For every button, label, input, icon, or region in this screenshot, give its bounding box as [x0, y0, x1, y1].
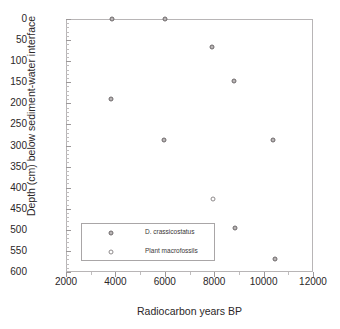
y-tick-label: 50	[0, 34, 27, 45]
figure-scatter-depth-vs-radiocarbon-age: Depth (cm) below sediment-water interfac…	[0, 0, 340, 329]
y-tick-minor	[66, 141, 69, 142]
y-tick-minor	[66, 162, 69, 163]
y-tick-mark	[66, 209, 71, 210]
data-point	[109, 17, 114, 22]
x-tick-minor	[91, 272, 92, 275]
y-tick-minor	[66, 32, 69, 33]
x-tick-label: 12000	[283, 276, 340, 287]
y-tick-mark	[66, 40, 71, 41]
y-tick-minor	[66, 234, 69, 235]
y-tick-label: 300	[0, 140, 27, 151]
y-tick-minor	[66, 238, 69, 239]
y-tick-minor	[66, 129, 69, 130]
y-tick-mark	[66, 146, 71, 147]
x-axis-title: Radiocarbon years BP	[66, 305, 313, 317]
y-tick-minor	[66, 112, 69, 113]
y-tick-minor	[66, 99, 69, 100]
y-tick-label: 350	[0, 161, 27, 172]
data-point	[209, 45, 214, 50]
y-tick-label: 200	[0, 97, 27, 108]
y-tick-label: 500	[0, 224, 27, 235]
y-tick-minor	[66, 192, 69, 193]
x-tick-minor	[288, 272, 289, 275]
data-point	[271, 138, 276, 143]
y-tick-minor	[66, 133, 69, 134]
y-tick-minor	[66, 86, 69, 87]
y-tick-mark	[66, 124, 71, 125]
y-tick-mark	[66, 82, 71, 83]
y-tick-minor	[66, 205, 69, 206]
y-tick-label: 450	[0, 203, 27, 214]
y-tick-minor	[66, 36, 69, 37]
y-tick-label: 400	[0, 182, 27, 193]
y-tick-mark	[66, 19, 71, 20]
legend-label-1: Plant macrofossils	[145, 247, 198, 254]
y-tick-minor	[66, 183, 69, 184]
data-point	[108, 97, 113, 102]
y-tick-minor	[66, 226, 69, 227]
y-tick-minor	[66, 255, 69, 256]
y-tick-minor	[66, 137, 69, 138]
legend-label-0: D. crassicostatus	[145, 228, 195, 235]
y-tick-minor	[66, 70, 69, 71]
y-tick-minor	[66, 175, 69, 176]
y-tick-minor	[66, 221, 69, 222]
y-tick-label: 0	[0, 13, 27, 24]
y-tick-mark	[66, 251, 71, 252]
y-tick-minor	[66, 49, 69, 50]
legend: D. crassicostatus Plant macrofossils	[81, 223, 215, 261]
y-tick-mark	[66, 61, 71, 62]
data-point	[210, 197, 215, 202]
y-tick-minor	[66, 213, 69, 214]
y-tick-minor	[66, 116, 69, 117]
y-tick-minor	[66, 91, 69, 92]
legend-marker-circle-icon	[109, 250, 114, 255]
data-point	[163, 17, 168, 22]
y-tick-minor	[66, 95, 69, 96]
y-tick-minor	[66, 74, 69, 75]
y-tick-minor	[66, 154, 69, 155]
data-point	[162, 138, 167, 143]
y-tick-minor	[66, 53, 69, 54]
y-tick-label: 100	[0, 55, 27, 66]
legend-item-1: Plant macrofossils	[82, 243, 214, 262]
y-tick-minor	[66, 242, 69, 243]
y-tick-label: 550	[0, 245, 27, 256]
y-tick-minor	[66, 44, 69, 45]
data-point	[231, 78, 236, 83]
data-point	[272, 257, 277, 262]
y-tick-minor	[66, 158, 69, 159]
y-tick-minor	[66, 259, 69, 260]
y-tick-label: 250	[0, 118, 27, 129]
y-tick-minor	[66, 200, 69, 201]
y-tick-minor	[66, 171, 69, 172]
y-tick-mark	[66, 188, 71, 189]
y-tick-label: 600	[0, 266, 27, 277]
x-tick-minor	[140, 272, 141, 275]
x-tick-minor	[190, 272, 191, 275]
y-tick-mark	[66, 103, 71, 104]
y-tick-minor	[66, 23, 69, 24]
y-tick-minor	[66, 264, 69, 265]
y-tick-minor	[66, 217, 69, 218]
y-tick-minor	[66, 78, 69, 79]
legend-item-0: D. crassicostatus	[82, 224, 214, 243]
y-tick-minor	[66, 268, 69, 269]
x-tick-minor	[239, 272, 240, 275]
legend-marker-diamond-icon	[109, 231, 114, 236]
y-tick-minor	[66, 179, 69, 180]
cropped-caption-text	[36, 0, 216, 5]
y-tick-minor	[66, 120, 69, 121]
y-tick-mark	[66, 230, 71, 231]
y-tick-mark	[66, 167, 71, 168]
y-tick-minor	[66, 196, 69, 197]
y-tick-minor	[66, 65, 69, 66]
y-tick-minor	[66, 57, 69, 58]
y-tick-minor	[66, 247, 69, 248]
y-tick-minor	[66, 108, 69, 109]
data-point	[233, 225, 238, 230]
y-tick-label: 150	[0, 76, 27, 87]
y-tick-minor	[66, 27, 69, 28]
y-tick-minor	[66, 150, 69, 151]
